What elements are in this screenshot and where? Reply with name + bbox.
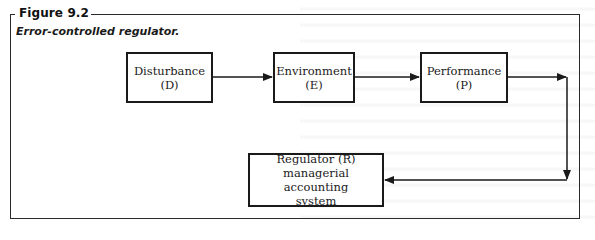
node-performance: Performance (P) <box>420 52 508 103</box>
node-environment: Environment (E) <box>273 52 355 103</box>
node-performance-title: Performance <box>427 64 502 78</box>
node-regulator-desc-2: system <box>296 194 337 208</box>
node-disturbance-symbol: (D) <box>160 78 178 92</box>
node-environment-symbol: (E) <box>305 78 322 92</box>
node-regulator: Regulator (R) managerial accounting syst… <box>248 153 384 207</box>
node-disturbance-title: Disturbance <box>134 64 205 78</box>
node-environment-title: Environment <box>276 64 352 78</box>
node-regulator-title: Regulator (R) <box>276 152 355 166</box>
node-disturbance: Disturbance (D) <box>126 52 213 103</box>
node-performance-symbol: (P) <box>456 78 473 92</box>
node-regulator-desc-1: managerial accounting <box>250 166 382 194</box>
